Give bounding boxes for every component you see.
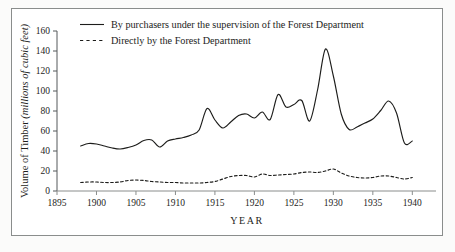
x-tick-label: 1895	[48, 198, 67, 208]
x-tick-label: 1910	[166, 198, 185, 208]
y-axis-ticks: 020406080100120140160	[36, 26, 57, 196]
x-tick-label: 1940	[403, 198, 422, 208]
x-tick-label: 1905	[126, 198, 145, 208]
x-axis-title: YEAR	[230, 215, 264, 226]
x-axis-ticks: 1895190019051910191519201925193019351940	[48, 191, 423, 208]
y-tick-label: 40	[41, 146, 51, 156]
y-axis-title-plain: Volume of Timber	[19, 121, 30, 198]
figure-container: 020406080100120140160 189519001905191019…	[0, 0, 455, 252]
y-tick-label: 0	[45, 186, 50, 196]
x-tick-label: 1925	[284, 198, 303, 208]
chart-frame: 020406080100120140160 189519001905191019…	[11, 8, 443, 236]
data-series-layer	[81, 49, 413, 183]
x-tick-label: 1920	[245, 198, 264, 208]
y-tick-label: 120	[36, 66, 51, 76]
y-axis-title-units: (millions of cubic feet)	[19, 23, 31, 118]
series-line-purchasers	[81, 49, 413, 149]
legend-label-direct: Directly by the Forest Department	[111, 35, 251, 46]
y-tick-label: 160	[36, 26, 51, 36]
chart-legend: By purchasers under the supervision of t…	[80, 19, 364, 46]
y-tick-label: 60	[41, 126, 51, 136]
y-tick-label: 140	[36, 46, 51, 56]
y-axis-title: Volume of Timber (millions of cubic feet…	[19, 23, 31, 198]
x-tick-label: 1935	[363, 198, 382, 208]
y-tick-label: 80	[41, 106, 51, 116]
y-tick-label: 100	[36, 86, 51, 96]
legend-label-purchasers: By purchasers under the supervision of t…	[111, 19, 364, 30]
series-line-direct	[81, 169, 413, 183]
x-tick-label: 1900	[87, 198, 106, 208]
x-tick-label: 1930	[324, 198, 343, 208]
x-tick-label: 1915	[205, 198, 224, 208]
y-tick-label: 20	[41, 166, 51, 176]
timber-volume-line-chart: 020406080100120140160 189519001905191019…	[12, 9, 442, 235]
